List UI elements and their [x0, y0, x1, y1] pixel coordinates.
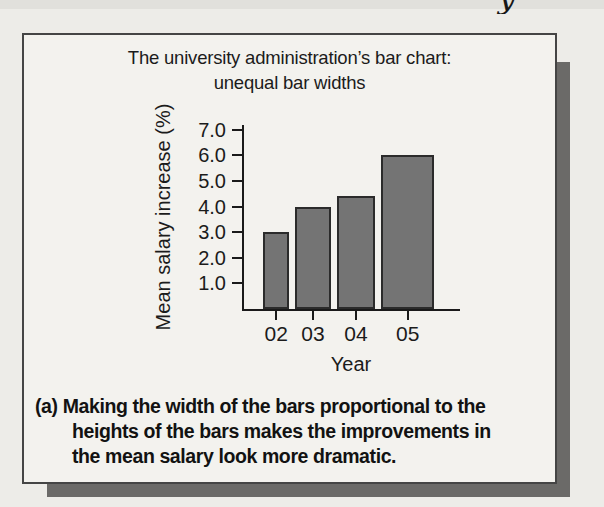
caption-line-2: heights of the bars makes the improvemen…: [72, 419, 545, 444]
x-axis-tick: [275, 311, 277, 320]
caption-line-3: the mean salary look more dramatic.: [72, 444, 545, 469]
x-axis-title: Year: [242, 353, 460, 376]
bar-04: [337, 196, 376, 309]
caption-line-1: (a) Making the width of the bars proport…: [35, 394, 545, 419]
page: { "page": { "header_fragment": "y" }, "f…: [0, 0, 604, 507]
bar-05: [381, 155, 434, 309]
bar-03: [295, 207, 330, 309]
y-axis-tick: [232, 206, 242, 208]
y-axis-tick-label: 2.0: [182, 246, 226, 270]
y-axis-tick: [232, 154, 242, 156]
x-axis-tick-label: 05: [386, 322, 430, 346]
figure-drop-shadow-bottom: [47, 484, 570, 497]
figure-box: The university administration’s bar char…: [22, 33, 557, 484]
y-axis-tick-label: 5.0: [182, 169, 226, 193]
x-axis-tick: [355, 311, 357, 320]
figure-drop-shadow-right: [557, 62, 570, 495]
page-header-text-fragment: y: [492, 0, 522, 14]
bar-02: [263, 232, 289, 309]
x-axis-line: [242, 309, 460, 311]
caption-text-1: Making the width of the bars proportiona…: [63, 395, 486, 417]
y-axis-tick-label: 4.0: [182, 195, 226, 219]
cropped-letter-y: y: [498, 0, 516, 14]
y-axis-tick: [232, 180, 242, 182]
y-axis-tick-label: 1.0: [182, 271, 226, 295]
y-axis-line: [242, 125, 244, 311]
caption-label: (a): [35, 395, 58, 417]
y-axis-tick-label: 6.0: [182, 143, 226, 167]
y-axis-tick: [232, 231, 242, 233]
y-axis-tick: [232, 257, 242, 259]
x-axis-tick: [407, 311, 409, 320]
x-axis-tick: [312, 311, 314, 320]
y-axis-tick: [232, 129, 242, 131]
x-axis-tick-label: 03: [291, 322, 335, 346]
y-axis-tick-label: 3.0: [182, 220, 226, 244]
figure-caption: (a) Making the width of the bars proport…: [35, 394, 545, 469]
y-axis-tick-label: 7.0: [182, 118, 226, 142]
x-axis-tick-label: 04: [334, 322, 378, 346]
y-axis-tick: [232, 282, 242, 284]
